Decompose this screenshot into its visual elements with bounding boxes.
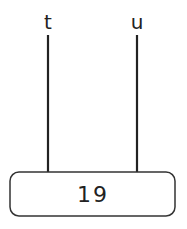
wire-label-u: u bbox=[131, 10, 144, 34]
wire-label-t: t bbox=[44, 10, 52, 34]
node-box-label: 19 bbox=[77, 182, 109, 207]
string-diagram: t u 19 bbox=[0, 0, 187, 229]
